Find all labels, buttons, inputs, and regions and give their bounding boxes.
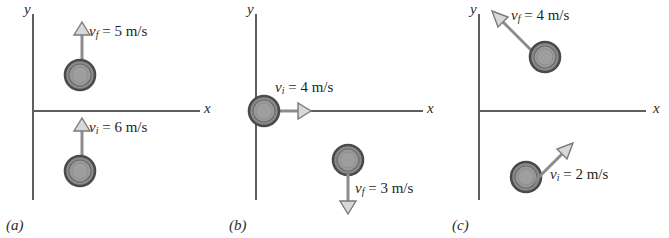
y-axis: [32, 14, 34, 200]
ball-upper: [63, 58, 97, 92]
vector-value-vi: = 6 m/s: [102, 119, 147, 135]
x-axis-label: x: [204, 101, 211, 116]
vector-value-vf: = 3 m/s: [368, 180, 413, 196]
vector-label-vi: vi = 6 m/s: [89, 120, 147, 136]
vector-subscript-vf: f: [518, 13, 521, 24]
vector-value-vi: = 2 m/s: [563, 166, 608, 182]
ball-origin: [247, 94, 281, 128]
vector-symbol-vf: v: [89, 23, 96, 39]
panel-tag-c: (c): [452, 217, 469, 234]
y-axis-label: y: [470, 2, 477, 17]
panel-tag-b: (b): [229, 217, 247, 234]
vector-label-vi: vi = 2 m/s: [550, 167, 608, 183]
panel-a: y x vf = 5 m/s v: [0, 0, 223, 238]
vector-subscript-vi: i: [282, 85, 285, 96]
vector-symbol-vi: v: [275, 79, 282, 95]
ball-upper: [528, 40, 562, 74]
panel-tag-a: (a): [6, 217, 24, 234]
x-axis: [32, 110, 200, 112]
vector-symbol-vf: v: [355, 180, 362, 196]
x-axis-label: x: [427, 101, 434, 116]
vector-subscript-vi: i: [557, 172, 560, 183]
vector-label-vi: vi = 4 m/s: [275, 80, 333, 96]
ball-lower: [63, 154, 97, 188]
physics-vector-figure: y x vf = 5 m/s v: [0, 0, 669, 238]
y-axis-label: y: [24, 2, 31, 17]
vector-symbol-vi: v: [89, 119, 96, 135]
vector-symbol-vi: v: [550, 166, 557, 182]
vector-value-vi: = 4 m/s: [288, 79, 333, 95]
vector-label-vf: vf = 4 m/s: [511, 8, 569, 24]
panel-c: y x vf = 4 m/s: [446, 0, 669, 238]
vector-subscript-vi: i: [96, 125, 99, 136]
panel-b: y x vi = 4 m/s: [223, 0, 446, 238]
vector-subscript-vf: f: [362, 186, 365, 197]
vector-value-vf: = 4 m/s: [524, 7, 569, 23]
x-axis: [478, 110, 646, 112]
vector-label-vf: vf = 3 m/s: [355, 181, 413, 197]
y-axis: [478, 14, 480, 200]
vector-subscript-vf: f: [96, 29, 99, 40]
ball-lower: [331, 143, 365, 177]
vector-symbol-vf: v: [511, 7, 518, 23]
vector-label-vf: vf = 5 m/s: [89, 24, 147, 40]
x-axis-label: x: [653, 101, 660, 116]
vector-value-vf: = 5 m/s: [102, 23, 147, 39]
y-axis-label: y: [247, 2, 254, 17]
